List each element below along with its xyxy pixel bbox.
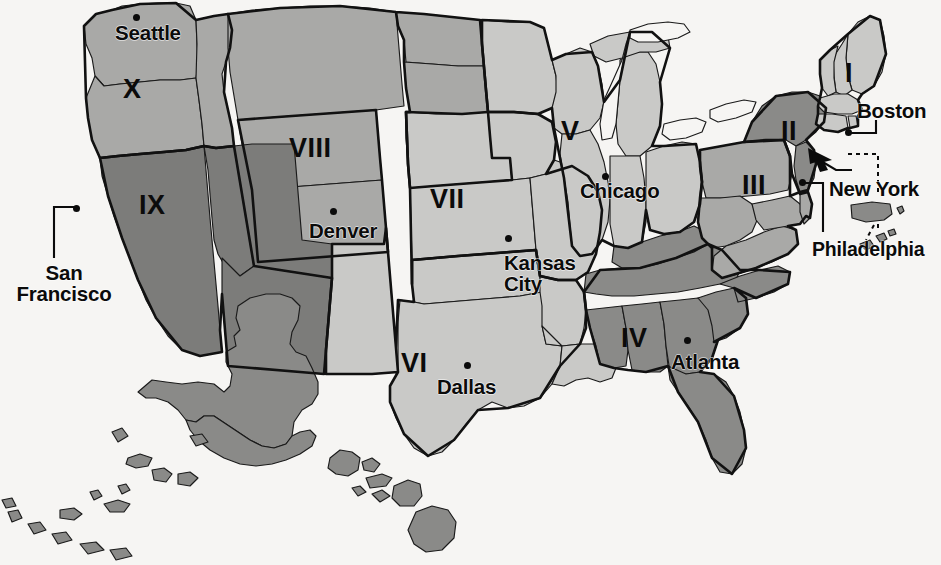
city-dot-seattle [133, 14, 140, 21]
region-label-v: V [561, 118, 580, 146]
city-dot-atlanta [684, 337, 691, 344]
city-label-new-york: New York [829, 178, 919, 199]
region-label-iv: IV [621, 325, 648, 353]
hawaii-shapes [328, 450, 456, 552]
region-label-ii: II [781, 118, 797, 146]
region-label-vi: VI [401, 350, 428, 378]
city-label-chicago: Chicago [580, 180, 659, 201]
region-label-i: I [845, 60, 853, 88]
us-federal-regions-map: I II III IV V VI VII VIII IX X Seattle S… [0, 0, 941, 565]
city-label-kansas-city: Kansas City [504, 252, 576, 294]
region-label-viii: VIII [289, 135, 332, 163]
city-label-dallas: Dallas [437, 376, 496, 397]
city-dot-new-york [812, 154, 819, 161]
city-label-philadelphia: Philadelphia [812, 239, 924, 259]
city-dot-boston [845, 129, 852, 136]
city-dot-philadelphia [799, 179, 806, 186]
city-dot-san-francisco [73, 205, 80, 212]
region-label-ix: IX [139, 192, 166, 220]
city-label-san-francisco: San Francisco [8, 262, 120, 304]
city-dot-kansas-city [505, 235, 512, 242]
city-label-boston: Boston [857, 100, 926, 121]
city-label-denver: Denver [309, 220, 377, 241]
city-label-atlanta: Atlanta [671, 351, 739, 372]
alaska-shapes [2, 294, 318, 560]
region-label-vii: VII [430, 186, 465, 214]
city-dot-dallas [464, 362, 471, 369]
city-label-seattle: Seattle [115, 22, 181, 43]
region-label-x: X [123, 76, 142, 104]
region-label-iii: III [742, 172, 766, 200]
city-dot-denver [330, 208, 337, 215]
